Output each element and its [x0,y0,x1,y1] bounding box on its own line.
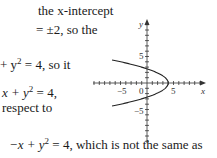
x-tick-label-5: 5 [171,86,176,96]
y-axis-label: y [138,19,143,29]
y-tick-label-neg5: −5 [134,106,144,116]
x-axis-label: x [200,86,205,96]
x-axis [93,81,203,85]
y-axis [145,24,149,143]
x-axis-arrow-icon [200,81,206,86]
y-axis-arrow-icon [145,19,150,25]
x-tick-label-0: 0 [139,86,144,96]
y-tick-label-5: 5 [139,51,144,61]
parabola-graph: x y −5 0 5 5 −5 [0,0,217,158]
x-tick-label-neg5: −5 [117,86,127,96]
